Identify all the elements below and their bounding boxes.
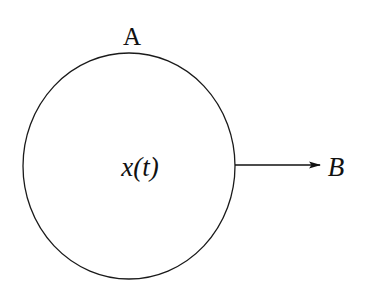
label-a: A	[123, 23, 141, 50]
diagram-canvas: A x(t) B	[0, 0, 366, 302]
label-b: B	[328, 152, 345, 182]
label-x-of-t: x(t)	[120, 152, 158, 182]
